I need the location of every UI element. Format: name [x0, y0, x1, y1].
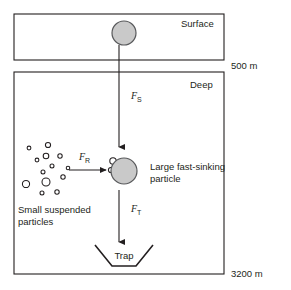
large-particle-label-line2: particle [150, 173, 181, 184]
small-particle [58, 154, 62, 158]
small-particle [40, 191, 44, 195]
small-particle [50, 164, 54, 168]
force-sinking-label: FS [130, 90, 142, 103]
force-trapping-label: FT [130, 203, 142, 216]
depth-label-500: 500 m [231, 60, 257, 71]
deep-box-label: Deep [190, 79, 213, 90]
small-particle [42, 178, 50, 186]
force-repackaging-label: FR [78, 151, 90, 164]
force-trapping-group: FT [119, 190, 142, 242]
small-particle [66, 166, 70, 170]
large-particle-group: Large fast-sinking particle [108, 158, 225, 184]
surface-particle [112, 21, 136, 45]
small-particle [41, 170, 45, 174]
small-particle [22, 180, 29, 187]
small-particle [27, 146, 31, 150]
depth-scale: 500 m 3200 m [231, 60, 263, 279]
small-suspended-particles-label-line1: Small suspended [18, 204, 91, 215]
small-particle [45, 142, 50, 147]
small-particle [35, 158, 39, 162]
large-fast-sinking-particle [111, 158, 137, 184]
small-particle [55, 190, 59, 194]
particle-flux-diagram: Surface Deep 500 m 3200 m FS [0, 0, 291, 290]
small-particle [43, 153, 49, 159]
small-suspended-particles-group [22, 142, 69, 195]
small-suspended-particles-label-line2: particles [18, 216, 54, 227]
surface-box-label: Surface [181, 18, 214, 29]
depth-label-3200: 3200 m [231, 268, 263, 279]
force-repackaging-group: FR [69, 151, 106, 170]
small-particle [61, 175, 65, 179]
diagram-canvas: Surface Deep 500 m 3200 m FS [0, 0, 291, 290]
sediment-trap-label: Trap [114, 250, 133, 261]
sediment-trap-group: Trap [95, 245, 153, 266]
large-particle-label-line1: Large fast-sinking [150, 161, 225, 172]
